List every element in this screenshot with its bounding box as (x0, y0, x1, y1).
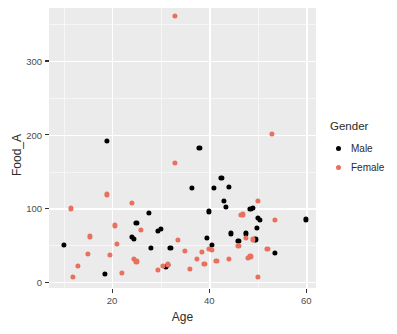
data-point-male (158, 226, 163, 231)
data-point-female (209, 247, 214, 252)
x-axis-tick-mark (209, 289, 210, 293)
data-point-female (173, 160, 178, 165)
gridline-minor-horizontal (49, 172, 316, 173)
data-point-female (112, 223, 117, 228)
data-point-female (173, 14, 178, 19)
gridline-minor-horizontal (49, 98, 316, 99)
data-point-male (146, 210, 151, 215)
gridline-major-vertical (112, 8, 113, 288)
data-point-female (182, 249, 187, 254)
data-point-female (187, 266, 192, 271)
data-point-male (258, 218, 263, 223)
data-point-female (243, 235, 248, 240)
data-point-female (68, 206, 73, 211)
data-point-female (88, 234, 93, 239)
x-axis-tick-label: 20 (107, 295, 118, 306)
data-point-male (207, 209, 212, 214)
legend-key (330, 159, 347, 176)
data-point-male (197, 145, 202, 150)
scatter-plot-figure: Age Food_A Gender MaleFemale 01002003002… (0, 0, 397, 334)
data-point-male (211, 185, 216, 190)
data-point-male (304, 217, 309, 222)
data-point-female (236, 243, 241, 248)
plot-panel (49, 8, 316, 288)
data-point-female (85, 252, 90, 257)
data-point-male (190, 185, 195, 190)
legend: Gender MaleFemale (330, 120, 396, 177)
gridline-major-horizontal (49, 61, 316, 62)
y-axis-tick-label: 300 (26, 56, 42, 67)
data-point-female (119, 270, 124, 275)
legend-item-female[interactable]: Female (330, 158, 396, 177)
y-axis-tick-mark (45, 282, 49, 283)
y-axis-tick-label: 100 (26, 203, 42, 214)
data-point-male (131, 236, 136, 241)
data-point-female (226, 257, 231, 262)
data-point-female (255, 198, 260, 203)
data-point-female (105, 192, 110, 197)
data-point-female (241, 212, 246, 217)
data-point-female (214, 258, 219, 263)
data-point-male (228, 231, 233, 236)
data-point-female (272, 218, 277, 223)
gridline-minor-horizontal (49, 245, 316, 246)
data-point-female (71, 274, 76, 279)
data-point-female (199, 249, 204, 254)
y-axis-tick-mark (45, 60, 49, 61)
x-axis-tick-mark (112, 289, 113, 293)
data-point-female (134, 259, 139, 264)
legend-title: Gender (330, 120, 396, 132)
data-point-male (134, 221, 139, 226)
data-point-female (202, 261, 207, 266)
legend-label: Male (351, 143, 373, 154)
data-point-male (219, 176, 224, 181)
gridline-minor-horizontal (49, 24, 316, 25)
data-point-male (168, 246, 173, 251)
y-axis-tick-label: 0 (37, 277, 42, 288)
y-axis-tick-label: 200 (26, 129, 42, 140)
data-point-male (221, 198, 226, 203)
x-axis-tick-label: 60 (301, 295, 312, 306)
gridline-major-horizontal (49, 208, 316, 209)
legend-key (330, 140, 347, 157)
legend-label: Female (351, 162, 384, 173)
y-axis-tick-mark (45, 208, 49, 209)
data-point-male (61, 243, 66, 248)
gridline-major-horizontal (49, 135, 316, 136)
data-point-female (248, 254, 253, 259)
x-axis-title: Age (49, 310, 316, 324)
female-legend-dot (336, 165, 341, 170)
data-point-female (139, 227, 144, 232)
data-point-female (76, 263, 81, 268)
x-axis-tick-mark (306, 289, 307, 293)
data-point-male (226, 184, 231, 189)
data-point-male (105, 138, 110, 143)
data-point-female (265, 246, 270, 251)
male-legend-dot (336, 146, 341, 151)
data-point-female (194, 256, 199, 261)
data-point-female (129, 200, 134, 205)
data-point-female (255, 274, 260, 279)
gridline-major-vertical (306, 8, 307, 288)
data-point-male (148, 246, 153, 251)
x-axis-tick-label: 40 (204, 295, 215, 306)
y-axis-title: Food_A (10, 100, 24, 210)
data-point-female (175, 238, 180, 243)
legend-item-male[interactable]: Male (330, 139, 396, 158)
data-point-male (272, 250, 277, 255)
legend-entries: MaleFemale (330, 139, 396, 177)
data-point-male (254, 225, 259, 230)
gridline-major-horizontal (49, 282, 316, 283)
y-axis-tick-mark (45, 134, 49, 135)
data-point-male (102, 271, 107, 276)
